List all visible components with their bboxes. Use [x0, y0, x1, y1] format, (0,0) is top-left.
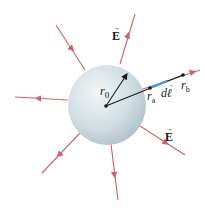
field-line-top-right	[120, 14, 135, 64]
center-point	[104, 104, 108, 108]
label-ra: ra	[147, 89, 156, 105]
vector-hat-dl: →	[168, 82, 174, 88]
label-rb: rb	[181, 78, 190, 94]
field-arrow-icon	[59, 153, 61, 155]
charged-sphere-diagram: E → E → r0 ra dℓ → rb	[0, 0, 205, 210]
vector-hat-top: →	[113, 24, 120, 32]
vector-hat-right: →	[166, 125, 173, 133]
field-line-bottom-right	[140, 126, 185, 155]
point-rb	[181, 73, 185, 77]
label-dl: dℓ	[161, 86, 172, 100]
field-arrow-icon	[70, 47, 72, 49]
field-line-left	[15, 97, 68, 100]
